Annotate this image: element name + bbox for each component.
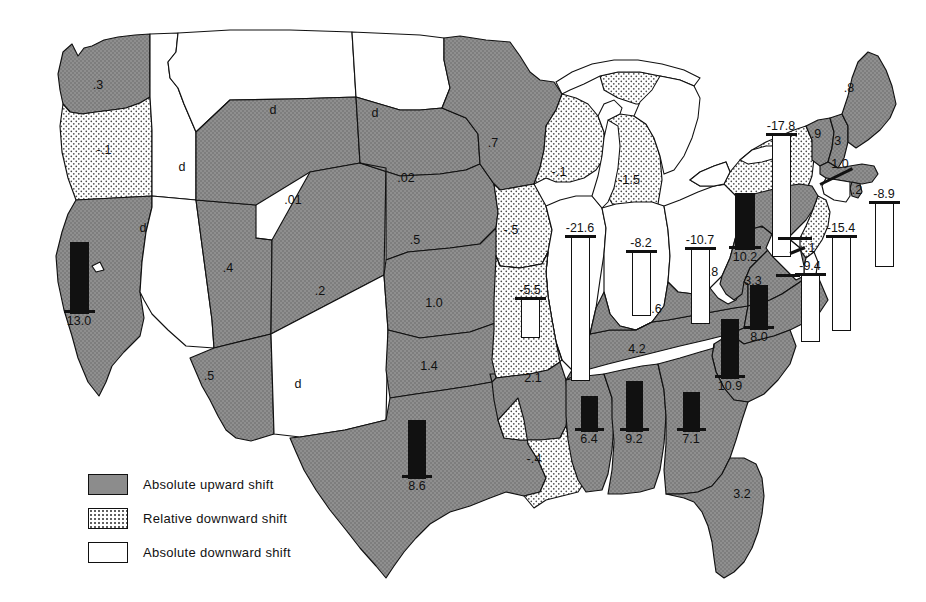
bar-label-ct: -8.9 (873, 187, 895, 201)
state-AZ[interactable] (190, 334, 274, 441)
state-label-mt: d (269, 104, 276, 117)
bar-sc (714, 319, 746, 377)
state-label-nd: d (371, 107, 378, 120)
bar-stem (70, 242, 89, 314)
leader-line-nj (778, 237, 812, 240)
legend-row-relative-downward: Relative downward shift (88, 504, 291, 532)
bar-stem (832, 237, 851, 331)
state-label-nm: d (294, 378, 301, 391)
bar-ca (63, 242, 96, 312)
bar-stem (875, 203, 894, 267)
bar-cap (744, 326, 774, 329)
bar-nc (743, 285, 775, 328)
state-label-az: .5 (204, 370, 215, 383)
bar-stem (735, 193, 755, 250)
legend-row-absolute-downward: Absolute downward shift (88, 538, 291, 566)
bar-stem (721, 319, 739, 379)
bar-stem (801, 275, 820, 342)
bar-mo (514, 299, 547, 336)
bar-il (564, 237, 597, 379)
state-ME[interactable] (842, 52, 896, 148)
bar-stem (571, 237, 590, 381)
population-shift-map: .3-.1ddd.02.7-.1-1.5.8.9.31.0.01.5-.5.4.… (0, 0, 926, 602)
bar-stem (683, 392, 700, 432)
bar-al (619, 381, 650, 430)
bar-nj (825, 237, 858, 329)
bar-stem (521, 299, 540, 338)
bar-cap (620, 428, 649, 431)
bar-stem (750, 285, 768, 330)
state-label-tn: 4.2 (628, 343, 646, 356)
bar-stem (626, 381, 643, 432)
state-label-ar: 2.1 (524, 372, 542, 385)
map-legend: Absolute upward shift Relative downward … (88, 470, 291, 572)
state-label-id: d (178, 161, 185, 174)
great-lakes-erie (690, 162, 730, 186)
state-label-or: -.1 (97, 144, 112, 157)
state-label-ks: 1.0 (425, 297, 443, 310)
legend-swatch-relative-downward (88, 508, 128, 529)
state-label-co: .2 (315, 285, 326, 298)
bar-label-il: -21.6 (566, 221, 595, 235)
bar-tx (401, 420, 433, 477)
bar-ga (676, 392, 707, 430)
bar-label-ms: 6.4 (580, 432, 597, 446)
state-ND[interactable] (352, 32, 450, 110)
state-label-ma: 1.0 (831, 158, 849, 171)
legend-label-relative-downward: Relative downward shift (143, 511, 287, 526)
state-label-ne: .5 (410, 234, 421, 247)
bar-stem (632, 252, 651, 316)
state-label-me: .8 (844, 82, 855, 95)
bar-label-al: 9.2 (625, 432, 642, 446)
bar-cap (565, 235, 596, 238)
bar-label-md: -9.4 (799, 259, 821, 273)
bar-label-sc: 10.9 (718, 379, 742, 393)
bar-ms (574, 396, 605, 430)
state-label-ia: -.5 (504, 224, 519, 237)
state-label-vt: .9 (811, 128, 822, 141)
legend-swatch-upward (88, 474, 128, 495)
bar-stem (581, 396, 598, 432)
bar-label-nj: -15.4 (827, 221, 856, 235)
state-label-ok: 1.4 (420, 360, 438, 373)
bar-cap (64, 310, 95, 313)
legend-label-absolute-downward: Absolute downward shift (143, 545, 291, 560)
bar-md (794, 275, 827, 340)
bar-pa (728, 193, 762, 248)
state-label-ri: .2 (852, 184, 863, 197)
bar-cap (515, 297, 546, 300)
bar-label-ca: 13.0 (67, 314, 91, 328)
state-label-sd: .02 (397, 172, 415, 185)
bar-stem (691, 249, 710, 324)
state-label-wa: .3 (93, 79, 104, 92)
leader-line-md (776, 274, 800, 277)
bar-cap (869, 201, 900, 204)
bar-cap (677, 428, 706, 431)
bar-label-ny: -17.8 (767, 119, 796, 133)
state-label-wy: .01 (284, 194, 302, 207)
bar-label-tx: 8.6 (408, 479, 425, 493)
state-label-nv: d (139, 222, 146, 235)
bar-in (625, 252, 658, 314)
state-label-wi: -.1 (552, 166, 567, 179)
bar-label-ga: 7.1 (682, 432, 699, 446)
bar-cap (626, 250, 657, 253)
bar-cap (575, 428, 604, 431)
state-label-fl: 3.2 (733, 488, 751, 501)
legend-label-upward: Absolute upward shift (143, 477, 274, 492)
state-label-mi: -1.5 (618, 174, 640, 187)
bar-label-mo: -5.5 (519, 283, 541, 297)
bar-label-pa: 10.2 (733, 250, 757, 264)
state-label-ut: .4 (223, 262, 234, 275)
bar-cap (826, 235, 857, 238)
bar-label-in: -8.2 (630, 236, 652, 250)
bar-cap (729, 246, 761, 249)
state-WA[interactable] (58, 34, 150, 114)
bar-cap (402, 475, 432, 478)
bar-cap (766, 133, 797, 136)
legend-row-upward: Absolute upward shift (88, 470, 291, 498)
legend-swatch-absolute-downward (88, 542, 128, 563)
bar-label-nc: 8.0 (750, 330, 767, 344)
bar-cap (715, 375, 745, 378)
state-label-mn: .7 (488, 137, 499, 150)
